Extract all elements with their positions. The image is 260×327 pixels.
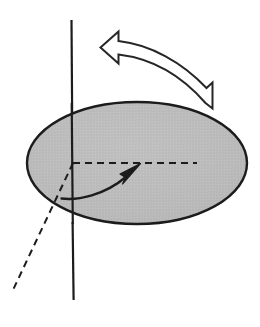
rotation-ribbon-arrow <box>101 32 213 109</box>
rotation-axis-lower-segment <box>73 222 74 300</box>
rotating-disk-diagram: Rotating disk about a vertical axis <box>0 0 260 327</box>
figure-container: Rotating disk about a vertical axis <box>0 0 260 327</box>
ribbon-arrow-outline <box>101 32 213 109</box>
